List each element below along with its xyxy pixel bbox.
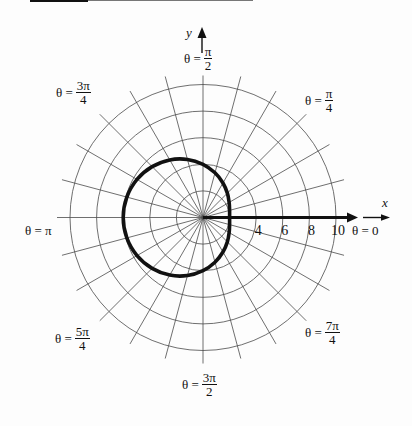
angle-label-zero: θ = 0 xyxy=(352,223,379,239)
radius-tick-label: 6 xyxy=(281,223,288,238)
fraction: 3π 4 xyxy=(76,80,91,105)
angle-label-7pi-over-4: θ = 7π 4 xyxy=(305,320,340,345)
radial-grid-line xyxy=(203,91,276,217)
x-axis-arrowhead-icon xyxy=(347,213,358,223)
angle-label-prefix: θ = xyxy=(184,51,201,67)
radial-grid-line xyxy=(203,218,276,344)
y-axis-label: y xyxy=(184,25,192,40)
x-axis-label: x xyxy=(381,195,388,210)
x-direction-arrowhead-icon xyxy=(381,214,390,220)
radial-grid-line xyxy=(130,218,203,344)
radial-grid-line xyxy=(77,145,203,218)
radial-grid-line xyxy=(77,218,203,291)
y-axis-arrowhead-icon xyxy=(198,27,207,38)
fraction: π 4 xyxy=(325,88,334,113)
radial-grid-line xyxy=(165,76,203,217)
fraction-denominator: 4 xyxy=(326,101,333,113)
fraction-denominator: 2 xyxy=(205,59,212,71)
radius-tick-label: 8 xyxy=(308,223,315,238)
radial-grid-line xyxy=(165,218,203,359)
radial-grid-line xyxy=(203,218,241,359)
fraction-denominator: 4 xyxy=(329,333,336,345)
angle-label-3pi-over-2: θ = 3π 2 xyxy=(182,372,217,397)
angle-label-text: θ = π xyxy=(25,223,52,239)
angle-label-3pi-over-4: θ = 3π 4 xyxy=(56,80,91,105)
polar-graph-figure: xy46810 θ = π 2 θ = 3π 4 θ = π 4 θ = π θ… xyxy=(0,0,412,426)
fraction-denominator: 2 xyxy=(206,385,213,397)
angle-label-5pi-over-4: θ = 5π 4 xyxy=(55,326,90,351)
angle-label-pi-over-2: θ = π 2 xyxy=(184,46,212,71)
angle-label-pi-over-4: θ = π 4 xyxy=(305,88,333,113)
angle-label-prefix: θ = xyxy=(182,377,199,393)
angle-label-text: θ = 0 xyxy=(352,223,379,239)
angle-label-prefix: θ = xyxy=(55,331,72,347)
fraction: 3π 2 xyxy=(202,372,217,397)
angle-label-prefix: θ = xyxy=(56,85,73,101)
fraction: π 2 xyxy=(204,46,213,71)
radial-grid-line xyxy=(130,91,203,217)
radial-grid-line xyxy=(203,76,241,217)
fraction: 5π 4 xyxy=(75,326,90,351)
fraction: 7π 4 xyxy=(325,320,340,345)
angle-label-pi: θ = π xyxy=(25,223,52,239)
fraction-denominator: 4 xyxy=(79,339,86,351)
radius-tick-label: 10 xyxy=(331,223,345,238)
radius-tick-label: 4 xyxy=(255,223,262,238)
angle-label-prefix: θ = xyxy=(305,325,322,341)
fraction-denominator: 4 xyxy=(80,93,87,105)
angle-label-prefix: θ = xyxy=(305,93,322,109)
radial-grid-line xyxy=(203,114,306,217)
